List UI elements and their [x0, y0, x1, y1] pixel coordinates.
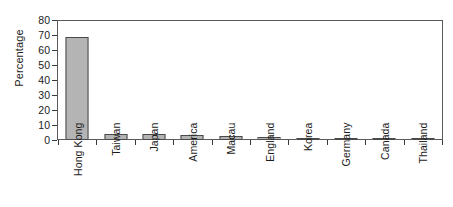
y-axis-tick-label: 20 [26, 105, 50, 115]
y-axis-title: Percentage [12, 8, 26, 108]
x-axis-tick-mark [96, 140, 97, 145]
x-axis-tick-mark [212, 140, 213, 145]
y-axis-tick-label: 80 [26, 15, 50, 25]
x-axis-tick-mark [365, 140, 366, 145]
x-axis-category-label: Japan [147, 123, 161, 184]
x-label-slot: Thailand [404, 146, 442, 207]
x-label-slot: Taiwan [96, 146, 134, 207]
x-axis-category-labels: Hong KongTaiwanJapanAmericaMacauEnglandK… [58, 146, 442, 207]
x-axis-category-label: Taiwan [109, 123, 123, 184]
x-axis-tick-mark [442, 140, 443, 145]
x-label-slot: America [173, 146, 211, 207]
y-axis-tick-label: 40 [26, 75, 50, 85]
x-label-slot: Germany [327, 146, 365, 207]
y-axis-tick-label: 0 [26, 135, 50, 145]
x-axis-category-label: Macau [224, 123, 238, 184]
x-axis-tick-mark [250, 140, 251, 145]
x-axis-category-label: Korea [301, 123, 315, 184]
y-axis-tick-label: 30 [26, 90, 50, 100]
y-axis-tick-label: 50 [26, 60, 50, 70]
y-axis-tick-label: 60 [26, 45, 50, 55]
y-axis-tick-mark [52, 140, 57, 141]
x-axis-tick-mark [404, 140, 405, 145]
x-axis-category-label: Germany [339, 123, 353, 184]
x-axis-tick-mark [58, 140, 59, 145]
x-label-slot: Korea [288, 146, 326, 207]
x-label-slot: England [250, 146, 288, 207]
x-axis-tick-mark [173, 140, 174, 145]
x-label-slot: Canada [365, 146, 403, 207]
x-axis-tick-mark [327, 140, 328, 145]
y-axis-tick-label: 70 [26, 30, 50, 40]
bar-chart: Percentage 80706050403020100 Hong KongTa… [0, 0, 453, 207]
x-label-slot: Japan [135, 146, 173, 207]
x-axis-tick-mark [288, 140, 289, 145]
x-label-slot: Hong Kong [58, 146, 96, 207]
x-label-slot: Macau [212, 146, 250, 207]
x-axis-category-label: America [185, 123, 199, 184]
x-axis-tick-mark [135, 140, 136, 145]
x-axis-category-label: Thailand [416, 123, 430, 184]
y-axis-tick-label: 10 [26, 120, 50, 130]
x-axis-category-label: Canada [377, 123, 391, 184]
x-axis-category-label: England [262, 123, 276, 184]
x-axis-category-label: Hong Kong [70, 123, 84, 184]
y-axis-tick-labels: 80706050403020100 [26, 0, 50, 207]
